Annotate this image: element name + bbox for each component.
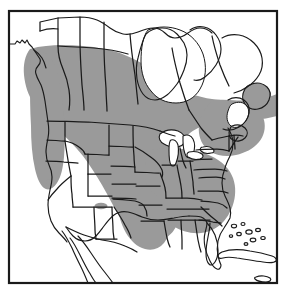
lake-erie: [187, 152, 203, 160]
range-map-figure: [0, 0, 286, 291]
north-america-range-map: [0, 0, 286, 291]
arizona-new-mexico-dot: [95, 203, 108, 209]
